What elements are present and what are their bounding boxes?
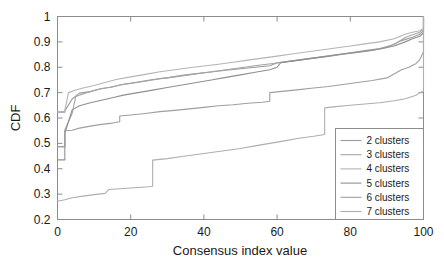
series-line-6-clusters <box>58 17 424 147</box>
y-tick-label: 1 <box>44 10 51 24</box>
y-tick-label: 0.3 <box>34 187 51 201</box>
chart-canvas: 020406080100 0.20.30.40.50.60.70.80.91 C… <box>0 0 444 276</box>
x-tick-label: 40 <box>197 225 211 239</box>
y-axis-tick-labels: 0.20.30.40.50.60.70.80.91 <box>34 10 51 227</box>
legend-label-4-clusters[interactable]: 4 clusters <box>367 163 410 174</box>
y-tick-label: 0.5 <box>34 136 51 150</box>
x-axis-title: Consensus index value <box>173 243 307 258</box>
legend-label-2-clusters[interactable]: 2 clusters <box>367 135 410 146</box>
x-tick-label: 80 <box>344 225 358 239</box>
legend-label-7-clusters[interactable]: 7 clusters <box>367 206 410 217</box>
x-tick-label: 20 <box>124 225 138 239</box>
x-tick-label: 0 <box>54 225 61 239</box>
y-tick-label: 0.4 <box>34 162 51 176</box>
y-tick-label: 0.9 <box>34 35 51 49</box>
y-tick-label: 0.7 <box>34 86 51 100</box>
x-axis-tick-labels: 020406080100 <box>54 225 434 239</box>
legend-label-5-clusters[interactable]: 5 clusters <box>367 178 410 189</box>
legend-label-3-clusters[interactable]: 3 clusters <box>367 149 410 160</box>
y-tick-label: 0.8 <box>34 60 51 74</box>
cdf-chart-figure: 020406080100 0.20.30.40.50.60.70.80.91 C… <box>0 0 444 276</box>
series-line-3-clusters <box>58 17 424 147</box>
chart-legend: 2 clusters3 clusters4 clusters5 clusters… <box>336 129 424 220</box>
y-axis-title: CDF <box>8 105 23 132</box>
y-tick-label: 0.6 <box>34 111 51 125</box>
y-tick-label: 0.2 <box>34 213 51 227</box>
legend-label-6-clusters[interactable]: 6 clusters <box>367 192 410 203</box>
x-tick-label: 60 <box>270 225 284 239</box>
x-tick-label: 100 <box>413 225 433 239</box>
